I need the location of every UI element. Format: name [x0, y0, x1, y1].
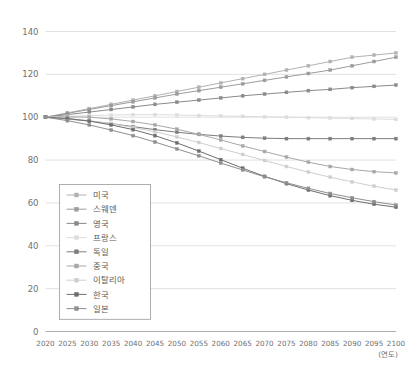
data-point: [351, 56, 354, 59]
y-axis-tick-label: 0: [33, 327, 38, 337]
data-point: [285, 91, 288, 94]
legend-label: 스웨덴: [93, 204, 117, 214]
data-point: [329, 176, 332, 179]
data-point: [373, 117, 376, 120]
data-point: [351, 64, 354, 67]
data-point: [329, 88, 332, 91]
x-axis-ticks: 2020202520302035204020452050205520602065…: [36, 339, 405, 348]
data-point: [285, 165, 288, 168]
data-point: [219, 96, 222, 99]
data-point: [241, 153, 244, 156]
data-point: [285, 181, 288, 184]
legend-marker: [75, 193, 79, 197]
x-axis-tick-label: 2090: [343, 339, 362, 348]
data-point: [197, 150, 200, 153]
data-point: [88, 116, 91, 119]
data-point: [395, 189, 398, 192]
legend-marker: [75, 278, 79, 282]
data-point: [175, 141, 178, 144]
data-point: [263, 79, 266, 82]
data-point: [88, 111, 91, 114]
data-point: [329, 165, 332, 168]
y-axis-tick-label: 80: [28, 155, 39, 165]
data-point: [110, 104, 113, 107]
data-point: [373, 60, 376, 63]
data-point: [88, 123, 91, 126]
data-point: [219, 138, 222, 141]
data-point: [285, 137, 288, 140]
x-axis-tick-label: 2025: [58, 339, 76, 348]
data-point: [241, 77, 244, 80]
x-axis-tick-label: 2065: [234, 339, 252, 348]
legend-marker: [75, 236, 79, 240]
legend-label: 프랑스: [93, 233, 117, 243]
data-point: [395, 51, 398, 54]
data-point: [307, 137, 310, 140]
data-point: [395, 118, 398, 121]
y-axis-tick-label: 60: [28, 198, 39, 208]
x-axis-tick-label: 2075: [277, 339, 295, 348]
data-point: [197, 99, 200, 102]
data-point: [219, 162, 222, 165]
legend-label: 독일: [93, 247, 109, 257]
data-point: [154, 123, 157, 126]
data-point: [132, 105, 135, 108]
data-point: [373, 185, 376, 188]
line-chart: 020406080100120140 202020252030203520402…: [0, 0, 408, 368]
data-point: [110, 108, 113, 111]
data-point: [219, 86, 222, 89]
data-point: [175, 128, 178, 131]
data-point: [241, 136, 244, 139]
data-point: [329, 137, 332, 140]
data-point: [373, 200, 376, 203]
data-point: [241, 94, 244, 97]
x-axis-tick-label: 2045: [146, 339, 164, 348]
data-point: [307, 187, 310, 190]
data-point: [154, 103, 157, 106]
y-axis-ticks: 020406080100120140: [22, 27, 38, 337]
data-point: [395, 204, 398, 207]
x-axis-unit-label: (연도): [378, 350, 398, 359]
x-axis-tick-label: 2040: [124, 339, 143, 348]
series-line: [46, 85, 397, 117]
data-point: [154, 113, 157, 116]
data-point: [175, 101, 178, 104]
data-point: [285, 75, 288, 78]
data-point: [373, 170, 376, 173]
legend-marker: [75, 207, 79, 211]
data-point: [307, 64, 310, 67]
y-axis-tick-label: 20: [28, 284, 39, 294]
legend-marker: [75, 250, 79, 254]
data-point: [197, 133, 200, 136]
y-axis-tick-label: 40: [28, 241, 39, 251]
data-point: [373, 137, 376, 140]
data-point: [175, 114, 178, 117]
data-point: [88, 120, 91, 123]
data-point: [263, 159, 266, 162]
series-중국: [44, 115, 398, 174]
data-point: [307, 171, 310, 174]
data-point: [241, 115, 244, 118]
series-line: [46, 117, 397, 190]
data-point: [351, 137, 354, 140]
data-point: [395, 171, 398, 174]
data-point: [197, 141, 200, 144]
x-axis-tick-label: 2050: [168, 339, 187, 348]
legend-label: 한국: [93, 290, 109, 300]
y-axis-tick-label: 100: [22, 112, 38, 122]
x-axis-tick-label: 2035: [102, 339, 120, 348]
data-point: [175, 147, 178, 150]
chart-legend[interactable]: 미국스웨덴영국프랑스독일중국이탈리아한국일본: [60, 185, 151, 320]
x-axis-tick-label: 2100: [387, 339, 406, 348]
chart-container: 020406080100120140 202020252030203520402…: [0, 0, 408, 368]
data-point: [307, 116, 310, 119]
data-point: [197, 154, 200, 157]
x-axis-tick-label: 2055: [190, 339, 208, 348]
data-point: [307, 89, 310, 92]
data-point: [395, 137, 398, 140]
data-point: [373, 85, 376, 88]
data-point: [263, 73, 266, 76]
data-point: [373, 54, 376, 57]
legend-label: 이탈리아: [93, 275, 125, 285]
data-point: [175, 131, 178, 134]
